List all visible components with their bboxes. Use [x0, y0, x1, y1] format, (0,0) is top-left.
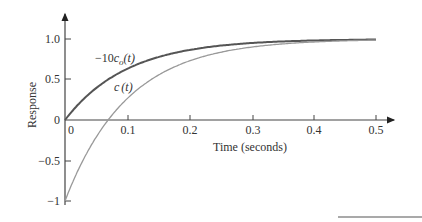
x-tick-label: 0.4: [307, 123, 322, 137]
y-tick-label: −0.5: [38, 154, 60, 168]
x-tick-label: 0: [68, 123, 74, 137]
x-axis-label: Time (seconds): [213, 140, 287, 154]
x-tick-label: 0.2: [183, 123, 198, 137]
y-tick-label: 1.0: [45, 32, 60, 46]
x-tick-label: 0.1: [121, 123, 136, 137]
y-tick-label: 0: [54, 113, 60, 127]
y-tick-label: 0.5: [45, 72, 60, 86]
y-tick-label: −1: [47, 194, 60, 208]
y-axis-label: Response: [25, 82, 39, 128]
x-tick-label: 0.3: [246, 123, 261, 137]
annotation-neg10co: −10co(t): [95, 51, 135, 67]
annotation-ct: c(t): [114, 80, 133, 94]
x-ticks: [128, 115, 376, 120]
response-chart: 1.0 0.5 0 −0.5 −1 0 0.1 0.2 0.3 0.4 0.5 …: [0, 0, 422, 222]
x-tick-label: 0.5: [369, 123, 384, 137]
